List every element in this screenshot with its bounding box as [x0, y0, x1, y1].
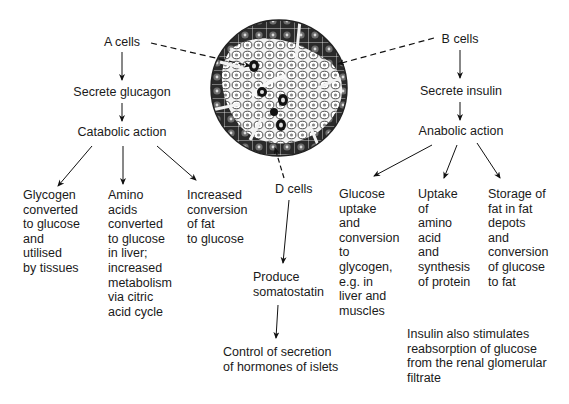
- a-effect-fat-conversion: Increased conversion of fat to glucose: [187, 188, 247, 246]
- secrete-insulin-label: Secrete insulin: [420, 84, 502, 99]
- anabolic-action-label: Anabolic action: [419, 124, 504, 139]
- catabolic-action-label: Catabolic action: [78, 125, 167, 140]
- b-effect-amino-acid-uptake: Uptake of amino acid and synthesis of pr…: [418, 187, 470, 289]
- secrete-glucagon-label: Secrete glucagon: [73, 85, 170, 100]
- a-effect-glycogen: Glycogen converted to glucose and utilis…: [23, 188, 80, 276]
- micrograph-circle: [205, 14, 355, 164]
- b-cells-label: B cells: [442, 32, 479, 47]
- b-effect-glucose-uptake: Glucose uptake and conversion to glycoge…: [339, 187, 399, 318]
- b-cells-pointer: [338, 38, 434, 64]
- b-effect-fat-storage: Storage of fat in fat depots and convers…: [488, 187, 548, 289]
- control-secretion-label: Control of secretion of hormones of isle…: [223, 345, 338, 374]
- d-cells-label: D cells: [275, 182, 313, 197]
- a-cells-label: A cells: [104, 35, 140, 50]
- produce-somatostatin-label: Produce somatostatin: [253, 270, 324, 299]
- a-effect-amino-acids: Amino acids converted to glucose in live…: [108, 188, 172, 319]
- insulin-reabsorption-note: Insulin also stimulates reabsorption of …: [407, 327, 547, 385]
